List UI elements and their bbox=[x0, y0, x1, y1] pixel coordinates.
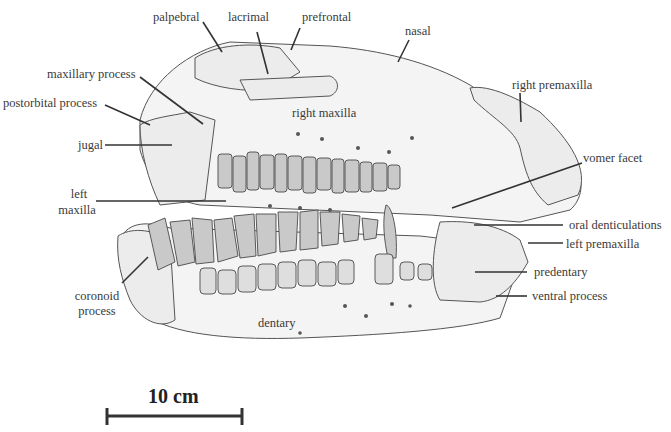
label-vomer-facet: vomer facet bbox=[583, 151, 642, 165]
scale-bar-label: 10 cm bbox=[148, 385, 199, 408]
label-nasal: nasal bbox=[405, 24, 431, 38]
jugal-shape bbox=[140, 112, 215, 205]
label-ventral-process: ventral process bbox=[532, 289, 607, 303]
label-left-maxilla-line2: maxilla bbox=[56, 203, 98, 217]
label-right-premaxilla: right premaxilla bbox=[512, 78, 592, 92]
label-jugal: jugal bbox=[78, 138, 103, 152]
label-predentary: predentary bbox=[534, 265, 587, 279]
label-lacrimal: lacrimal bbox=[228, 10, 269, 24]
label-oral-denticulations: oral denticulations bbox=[569, 218, 662, 232]
left-premaxilla-shape bbox=[433, 222, 528, 302]
anatomical-illustration: palpebral lacrimal prefrontal nasal maxi… bbox=[0, 0, 671, 432]
label-palpebral: palpebral bbox=[153, 10, 200, 24]
label-postorbital-process: postorbital process bbox=[3, 96, 97, 110]
label-left-premaxilla: left premaxilla bbox=[566, 237, 639, 251]
scale-bar bbox=[107, 408, 242, 425]
label-coronoid-process-line2: process bbox=[76, 304, 118, 318]
label-maxillary-process: maxillary process bbox=[47, 67, 136, 81]
lacrimal-shape bbox=[240, 76, 338, 100]
label-right-maxilla: right maxilla bbox=[292, 106, 356, 120]
skull-drawing bbox=[0, 0, 671, 432]
label-dentary: dentary bbox=[258, 316, 295, 330]
label-left-maxilla-line1: left bbox=[66, 187, 92, 201]
label-prefrontal: prefrontal bbox=[302, 10, 351, 24]
label-coronoid-process-line1: coronoid bbox=[72, 289, 122, 303]
